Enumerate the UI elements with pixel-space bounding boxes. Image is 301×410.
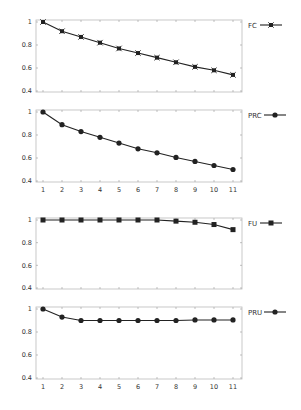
data-point [97,135,102,140]
x-tick-label: 10 [210,383,218,391]
data-point [174,219,179,224]
x-tick-label: 2 [60,383,64,391]
y-tick-label: 1 [28,305,32,313]
data-point [211,317,216,322]
data-point [231,227,236,232]
x-tick-label: 4 [98,186,102,194]
data-point [135,146,140,151]
legend-marker-icon [268,22,274,28]
data-point [135,50,141,56]
chart-panel-fc: 0.40.60.81FC [22,18,282,95]
data-point [192,64,198,70]
chart-panel-fu: 0.40.60.81FU [22,216,282,292]
legend-marker-icon [272,309,277,314]
data-point [41,218,46,223]
data-point [98,218,103,223]
series-line-prc [43,112,233,170]
legend-marker-icon [272,112,277,117]
x-tick-label: 10 [210,186,218,194]
legend-pru: PRU [248,309,286,317]
data-point [173,318,178,323]
legend-fc: FC [248,22,282,30]
y-tick-label: 0.4 [22,284,32,292]
y-tick-label: 0.8 [22,131,32,139]
charts-svg: 0.40.60.81FC0.40.60.811234567891011PRC0.… [0,0,301,410]
data-point [154,55,160,61]
legend-label: PRU [248,309,262,317]
data-point [116,46,122,52]
data-point [116,140,121,145]
data-point [173,59,179,65]
chart-panel-pru: 0.40.60.811234567891011PRU [22,305,286,391]
x-tick-label: 3 [79,186,83,194]
x-tick-label: 8 [174,186,178,194]
data-point [212,222,217,227]
x-tick-label: 9 [193,383,197,391]
data-point [60,218,65,223]
data-point [211,68,217,74]
data-point [79,218,84,223]
data-point [155,218,160,223]
legend-fu: FU [248,220,282,228]
data-point [40,306,45,311]
data-point [97,40,103,46]
x-tick-label: 2 [60,186,64,194]
x-tick-label: 7 [155,186,159,194]
legend-label: PRC [248,112,262,120]
chart-panel-prc: 0.40.60.811234567891011PRC [22,108,286,194]
data-point [230,317,235,322]
data-point [173,155,178,160]
x-tick-label: 4 [98,383,102,391]
x-tick-label: 11 [229,186,237,194]
x-tick-label: 1 [41,383,45,391]
y-tick-label: 0.4 [22,177,32,185]
data-point [116,318,121,323]
x-tick-label: 7 [155,383,159,391]
data-point [230,72,236,78]
data-point [136,218,141,223]
legend-prc: PRC [248,112,286,120]
data-point [40,109,45,114]
x-tick-label: 6 [136,186,140,194]
data-point [192,159,197,164]
x-tick-label: 6 [136,383,140,391]
y-tick-label: 0.6 [22,262,32,270]
legend-marker-icon [269,221,274,226]
y-tick-label: 1 [28,18,32,26]
y-tick-label: 0.6 [22,351,32,359]
y-tick-label: 0.8 [22,328,32,336]
x-tick-label: 5 [117,383,121,391]
x-tick-label: 5 [117,186,121,194]
data-point [78,129,83,134]
y-tick-label: 0.4 [22,374,32,382]
data-point [154,318,159,323]
data-point [211,163,216,168]
y-tick-label: 0.8 [22,41,32,49]
data-point [192,317,197,322]
y-tick-label: 1 [28,108,32,116]
data-point [59,122,64,127]
y-tick-label: 1 [28,216,32,224]
data-point [230,167,235,172]
y-tick-label: 0.6 [22,64,32,72]
series-line-fc [43,22,233,75]
x-tick-label: 1 [41,186,45,194]
data-point [78,318,83,323]
plot-frame [36,20,242,92]
data-point [154,150,159,155]
x-tick-label: 8 [174,383,178,391]
plot-frame [36,110,242,182]
plot-frame [36,218,242,289]
x-tick-label: 9 [193,186,197,194]
data-point [40,19,46,25]
x-tick-label: 3 [79,383,83,391]
legend-label: FC [248,22,257,30]
data-point [97,318,102,323]
legend-label: FU [248,220,257,228]
data-point [193,220,198,225]
y-tick-label: 0.4 [22,87,32,95]
y-tick-label: 0.6 [22,154,32,162]
data-point [59,314,64,319]
y-tick-label: 0.8 [22,239,32,247]
charts-container: 0.40.60.81FC0.40.60.811234567891011PRC0.… [0,0,301,410]
